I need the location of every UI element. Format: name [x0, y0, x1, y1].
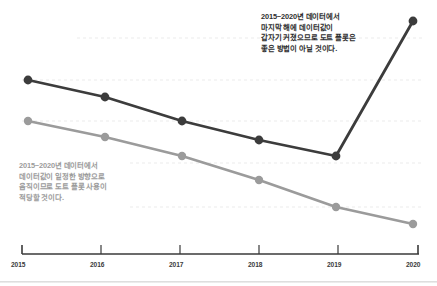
x-axis-label-2018: 2018	[248, 261, 262, 268]
dark-series-point	[24, 76, 33, 85]
top-annotation-line-2: 마지막 해에 데이터값이	[261, 23, 356, 34]
light-series-point	[178, 152, 186, 160]
bottom-annotation-line-4: 적당할 것이다.	[19, 193, 107, 204]
chart-figure: 2015~2020년 데이터에서 마지막 해에 데이터값이 갑자기 커졌으므로 …	[0, 0, 437, 286]
top-annotation-line-3: 갑자기 커졌으므로 도트 플롯은	[261, 33, 356, 44]
light-series-point	[255, 176, 263, 184]
top-annotation: 2015~2020년 데이터에서 마지막 해에 데이터값이 갑자기 커졌으므로 …	[261, 12, 356, 54]
light-series-point	[101, 133, 109, 141]
top-annotation-line-4: 좋은 방법이 아닐 것이다.	[261, 44, 356, 55]
light-series-point	[409, 220, 417, 228]
light-series-point	[332, 203, 340, 211]
x-axis-label-2015: 2015	[11, 261, 25, 268]
dark-series-point	[409, 17, 418, 26]
dark-series-point	[332, 152, 341, 161]
x-axis-label-2016: 2016	[90, 261, 104, 268]
light-series-point	[24, 117, 32, 125]
series-dark-series	[24, 17, 418, 161]
x-axis-label-2017: 2017	[169, 261, 183, 268]
dark-series-point	[178, 117, 187, 126]
x-axis-label-2019: 2019	[327, 261, 341, 268]
page-divider	[0, 281, 437, 283]
bottom-annotation: 2015~2020년 데이터에서 데이터값이 일정한 방향으로 움직이므로 도트…	[19, 161, 107, 203]
x-axis	[22, 245, 419, 254]
dark-series-point	[101, 93, 110, 102]
bottom-annotation-line-1: 2015~2020년 데이터에서	[19, 161, 107, 172]
top-annotation-line-1: 2015~2020년 데이터에서	[261, 12, 356, 23]
bottom-annotation-line-2: 데이터값이 일정한 방향으로	[19, 172, 107, 183]
bottom-annotation-line-3: 움직이므로 도트 플롯 사용이	[19, 182, 107, 193]
dark-series-point	[255, 136, 264, 145]
line-chart-plot	[0, 0, 437, 286]
x-axis-label-2020: 2020	[406, 261, 420, 268]
